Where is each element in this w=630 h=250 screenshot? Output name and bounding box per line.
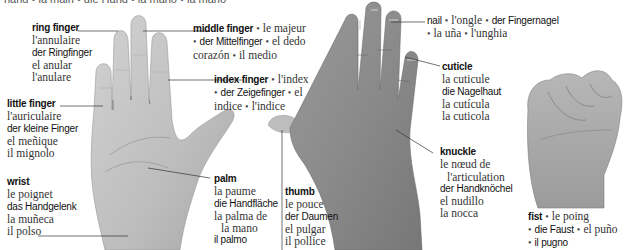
nail-en: nail	[427, 15, 442, 26]
cuticle-es: la cutícula	[442, 98, 501, 110]
index-finger-en: index finger	[214, 74, 268, 85]
label-ring-finger: ring finger l'annulaire der Ringfinger e…	[32, 22, 92, 83]
thumb-it: il pollice	[285, 235, 338, 247]
knuckle-es: el nudillo	[440, 195, 513, 207]
thumb-en: thumb	[285, 186, 338, 198]
palm-es-1: la palma de	[214, 210, 278, 222]
knuckle-fr-2: l'articulation	[440, 171, 513, 183]
little-finger-es: el meñique	[7, 135, 78, 147]
fist-fr: le poing	[552, 210, 589, 222]
thumb-de: der Daumen	[285, 211, 338, 223]
fist-en: fist	[528, 211, 542, 222]
palm-en: palm	[214, 173, 278, 185]
label-index-finger: index finger•l'index •der Zeigefinger•el…	[214, 73, 309, 113]
middle-finger-es-1: el dedo	[272, 35, 306, 47]
wrist-es: la muñeca	[7, 213, 76, 225]
fist-de: die Faust	[535, 224, 574, 235]
wrist-fr: le poignet	[7, 188, 76, 200]
knuckle-de: der Handknöchel	[440, 183, 513, 195]
middle-finger-en: middle finger	[193, 23, 253, 34]
wrist-it: il polso	[7, 225, 76, 237]
nail-es: la uña	[434, 27, 462, 39]
palm-it: il palmo	[214, 234, 278, 246]
label-thumb: thumb le pouce der Daumen el pulgar il p…	[285, 186, 338, 247]
label-nail: nail•l'ongle•der Fingernagel •la uña•l'u…	[427, 14, 559, 41]
knuckle-it: la nocca	[440, 207, 513, 219]
ring-finger-en: ring finger	[32, 22, 92, 34]
middle-finger-es-2: corazón	[193, 49, 229, 61]
wrist-de: das Handgelenk	[7, 201, 76, 213]
index-finger-it: l'indice	[252, 100, 285, 112]
nail-de: der Fingernagel	[492, 15, 559, 26]
index-finger-fr: l'index	[278, 73, 309, 85]
wrist-en: wrist	[7, 176, 76, 188]
little-finger-en: little finger	[7, 98, 78, 110]
index-finger-de: der Zeigefinger	[221, 87, 285, 98]
ring-finger-de: der Ringfinger	[32, 47, 92, 59]
palm-es-2: la mano	[214, 222, 278, 234]
palm-de: die Handfläche	[214, 198, 278, 210]
ring-finger-es: el anular	[32, 59, 92, 71]
visual-dictionary-page: hand • la main • die Hand • la mano • la…	[0, 0, 630, 250]
nail-fr: l'ongle	[451, 14, 482, 26]
middle-finger-de: der Mittelfinger	[200, 36, 263, 47]
ring-finger-fr: l'annulaire	[32, 34, 92, 46]
index-finger-es-2: indice	[214, 100, 242, 112]
cuticle-de: die Nagelhaut	[442, 86, 501, 98]
knuckle-fr-1: le nœud de	[440, 158, 513, 170]
cuticle-fr: la cuticule	[442, 73, 501, 85]
label-fist: fist•le poing •die Faust•el puño •il pug…	[528, 210, 618, 249]
fist-it: il pugno	[535, 237, 568, 248]
little-finger-fr: l'auriculaire	[7, 110, 78, 122]
cuticle-it: la cuticola	[442, 110, 501, 122]
thumb-es: el pulgar	[285, 223, 338, 235]
fist-image	[527, 71, 621, 208]
middle-finger-fr: le majeur	[263, 22, 306, 34]
index-finger-es-1: el	[294, 86, 302, 98]
label-cuticle: cuticle la cuticule die Nagelhaut la cut…	[442, 61, 501, 122]
ring-finger-it: l'anulare	[32, 71, 92, 83]
palm-fr: la paume	[214, 185, 278, 197]
label-middle-finger: middle finger•le majeur •der Mittelfinge…	[193, 22, 306, 62]
little-finger-de: der kleine Finger	[7, 123, 78, 135]
thumb-fr: le pouce	[285, 198, 338, 210]
cuticle-en: cuticle	[442, 61, 501, 73]
knuckle-en: knuckle	[440, 146, 513, 158]
little-finger-it: il mignolo	[7, 147, 78, 159]
fist-es: el puño	[583, 223, 617, 235]
middle-finger-it: il medio	[239, 49, 277, 61]
label-wrist: wrist le poignet das Handgelenk la muñec…	[7, 176, 76, 237]
label-little-finger: little finger l'auriculaire der kleine F…	[7, 98, 78, 159]
nail-it: l'unghia	[471, 27, 508, 39]
label-palm: palm la paume die Handfläche la palma de…	[214, 173, 278, 247]
label-knuckle: knuckle le nœud de l'articulation der Ha…	[440, 146, 513, 220]
